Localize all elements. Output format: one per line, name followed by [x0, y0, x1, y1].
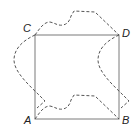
dashed-curve-left: [14, 35, 45, 108]
dashed-curve-bottom: [35, 95, 119, 119]
vertex-label-a: A: [23, 114, 31, 126]
vertex-label-c: C: [23, 22, 31, 34]
vertex-label-b: B: [122, 114, 129, 126]
square-abcd: [35, 35, 119, 119]
vertex-label-d: D: [122, 27, 130, 39]
square-diagram: C D A B: [0, 0, 135, 131]
dashed-curve-right: [98, 35, 129, 108]
dashed-curve-top: [35, 11, 119, 35]
